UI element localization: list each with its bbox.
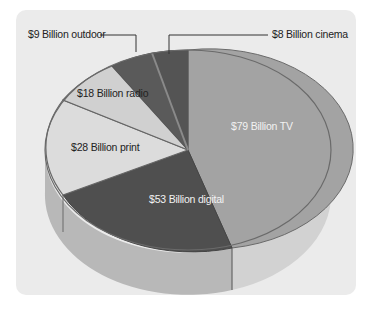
- pie-chart: $9 Billion outdoor $8 Billion cinema $18…: [0, 0, 376, 317]
- label-cinema: $8 Billion cinema: [272, 28, 348, 40]
- label-digital: $53 Billion digital: [149, 193, 224, 205]
- label-print: $28 Billion print: [71, 141, 140, 153]
- label-tv: $79 Billion TV: [231, 120, 293, 132]
- label-outdoor: $9 Billion outdoor: [28, 28, 106, 40]
- label-radio: $18 Billion radio: [77, 87, 149, 99]
